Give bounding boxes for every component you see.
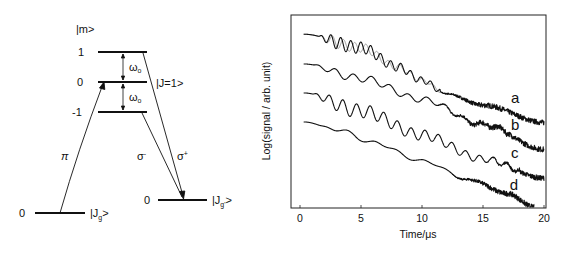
curve-c [304, 93, 544, 181]
pi-transition-arrow [60, 82, 105, 213]
curves [304, 34, 544, 207]
figure: |m> 1 0 -1 ωo ωo |J=1> 0 |Jg> 0 |Jg'> [0, 0, 563, 253]
x-tick-label: 20 [538, 212, 550, 224]
m-label-minus1: -1 [72, 106, 82, 118]
upper-state-label: |J=1> [156, 77, 183, 89]
sigma-plus-transition-arrow [143, 53, 185, 199]
y-axis-label: Log(signal / arb. unit) [260, 62, 272, 161]
final-m-label: 0 [144, 194, 150, 206]
x-axis-label: Time/μs [399, 228, 436, 240]
sigma-plus-label: σ+ [177, 150, 188, 162]
m-header: |m> [76, 23, 94, 35]
x-tick-label: 5 [358, 212, 364, 224]
omega-label-upper: ωo [129, 61, 142, 74]
ground-state-label: |Jg> [90, 207, 109, 222]
omega-label-lower: ωo [129, 91, 142, 104]
pi-label: π [61, 150, 69, 162]
final-state-label: |Jg'> [212, 194, 232, 209]
x-tick-label: 0 [297, 212, 303, 224]
curve-label-d: d [510, 176, 518, 193]
curve-label-b: b [511, 116, 519, 133]
signal-chart: 05101520 abcd Time/μs Log(signal / arb. … [260, 15, 550, 240]
curve-label-c: c [511, 144, 519, 161]
m-label-0: 0 [77, 76, 83, 88]
x-tick-label: 10 [416, 212, 428, 224]
energy-level-diagram: |m> 1 0 -1 ωo ωo |J=1> 0 |Jg> 0 |Jg'> [19, 23, 232, 222]
curve-b [304, 64, 544, 152]
ground-m-label: 0 [19, 207, 25, 219]
sigma-minus-transition-arrow [142, 113, 182, 197]
x-tick-label: 15 [477, 212, 489, 224]
curve-label-a: a [511, 89, 520, 106]
m-label-plus1: 1 [78, 46, 84, 58]
sigma-minus-label: σ- [137, 150, 147, 162]
